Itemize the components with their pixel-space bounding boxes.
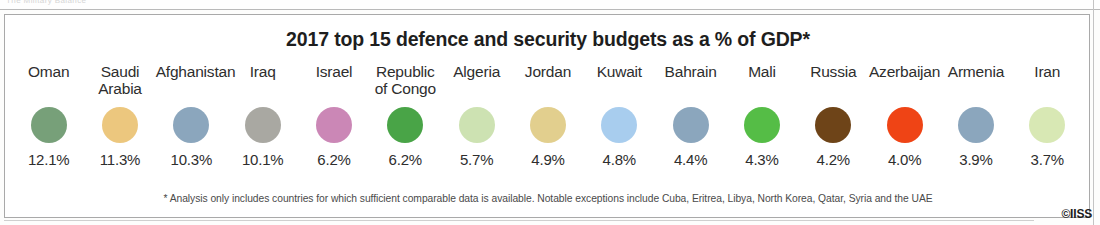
country-value: 12.1% (13, 151, 84, 168)
country-value: 4.3% (726, 151, 797, 168)
country-bubble-slot (584, 103, 655, 147)
country-bubble-slot (156, 103, 227, 147)
country-bubble-icon (316, 107, 352, 143)
country-columns: Oman12.1%Saudi Arabia11.3%Afghanistan10.… (13, 63, 1083, 183)
country-value: 4.9% (512, 151, 583, 168)
scan-top-edge-strip: The Military Balance (0, 0, 1100, 9)
scan-ghost-text: The Military Balance (6, 0, 86, 5)
country-value: 6.2% (298, 151, 369, 168)
country-column: Jordan4.9% (512, 63, 583, 183)
chart-footnote: * Analysis only includes countries for w… (5, 193, 1091, 204)
country-bubble-icon (31, 107, 67, 143)
country-label: Iran (1012, 63, 1083, 99)
country-value: 10.3% (156, 151, 227, 168)
country-bubble-slot (726, 103, 797, 147)
country-column: Republic of Congo6.2% (370, 63, 441, 183)
country-bubble-icon (245, 107, 281, 143)
country-column: Russia4.2% (798, 63, 869, 183)
country-bubble-slot (798, 103, 869, 147)
country-bubble-slot (227, 103, 298, 147)
scan-rule-bottom (4, 220, 1034, 221)
country-label: Russia (798, 63, 869, 99)
country-bubble-icon (887, 107, 923, 143)
country-label: Israel (298, 63, 369, 99)
country-bubble-slot (940, 103, 1011, 147)
country-bubble-icon (102, 107, 138, 143)
country-bubble-slot (869, 103, 940, 147)
country-bubble-slot (441, 103, 512, 147)
country-label: Azerbaijan (869, 63, 940, 99)
country-column: Algeria5.7% (441, 63, 512, 183)
country-bubble-icon (673, 107, 709, 143)
figure-container: 2017 top 15 defence and security budgets… (4, 14, 1090, 218)
country-bubble-slot (298, 103, 369, 147)
country-label: Bahrain (655, 63, 726, 99)
country-bubble-icon (744, 107, 780, 143)
country-bubble-icon (459, 107, 495, 143)
country-value: 3.9% (940, 151, 1011, 168)
country-column: Israel6.2% (298, 63, 369, 183)
country-column: Armenia3.9% (940, 63, 1011, 183)
country-bubble-icon (387, 107, 423, 143)
country-value: 5.7% (441, 151, 512, 168)
country-label: Mali (726, 63, 797, 99)
page-gutter-rule (1093, 0, 1094, 225)
country-column: Azerbaijan4.0% (869, 63, 940, 183)
country-bubble-slot (1012, 103, 1083, 147)
scanned-page: The Military Balance 2017 top 15 defence… (0, 0, 1100, 225)
country-bubble-icon (958, 107, 994, 143)
country-label: Jordan (512, 63, 583, 99)
country-label: Oman (13, 63, 84, 99)
country-bubble-slot (370, 103, 441, 147)
country-column: Mali4.3% (726, 63, 797, 183)
country-label: Algeria (441, 63, 512, 99)
country-value: 4.4% (655, 151, 726, 168)
country-bubble-icon (815, 107, 851, 143)
country-value: 6.2% (370, 151, 441, 168)
country-column: Kuwait4.8% (584, 63, 655, 183)
country-bubble-icon (530, 107, 566, 143)
country-label: Republic of Congo (370, 63, 441, 99)
country-bubble-slot (512, 103, 583, 147)
country-column: Afghanistan10.3% (156, 63, 227, 183)
country-column: Iraq10.1% (227, 63, 298, 183)
country-column: Iran3.7% (1012, 63, 1083, 183)
iiss-copyright: ©IISS (1061, 207, 1092, 221)
country-value: 4.0% (869, 151, 940, 168)
country-label: Iraq (227, 63, 298, 99)
country-label: Armenia (940, 63, 1011, 99)
country-column: Bahrain4.4% (655, 63, 726, 183)
country-bubble-slot (84, 103, 155, 147)
country-column: Saudi Arabia11.3% (84, 63, 155, 183)
scan-rule-top (0, 9, 1100, 10)
chart-title: 2017 top 15 defence and security budgets… (5, 28, 1091, 51)
country-column: Oman12.1% (13, 63, 84, 183)
country-bubble-icon (601, 107, 637, 143)
country-value: 11.3% (84, 151, 155, 168)
country-label: Afghanistan (156, 63, 227, 99)
country-bubble-slot (655, 103, 726, 147)
country-value: 3.7% (1012, 151, 1083, 168)
country-bubble-icon (1029, 107, 1065, 143)
country-value: 4.8% (584, 151, 655, 168)
country-label: Kuwait (584, 63, 655, 99)
country-value: 4.2% (798, 151, 869, 168)
country-value: 10.1% (227, 151, 298, 168)
country-bubble-slot (13, 103, 84, 147)
country-bubble-icon (173, 107, 209, 143)
country-label: Saudi Arabia (84, 63, 155, 99)
